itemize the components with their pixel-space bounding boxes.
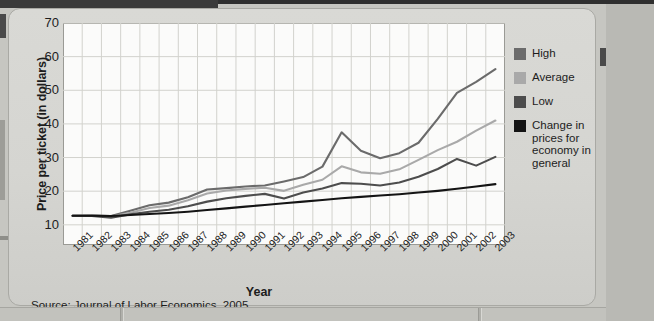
y-tick-label: 20	[33, 183, 59, 198]
right-edge-marker	[600, 48, 606, 66]
x-axis-tick-labels: 1981198219831984198519861987198819891990…	[63, 245, 513, 289]
y-tick-label: 50	[33, 82, 59, 97]
rail-tick	[478, 308, 482, 321]
left-edge-strip	[0, 120, 5, 200]
bottom-rail-line	[0, 307, 606, 308]
y-tick-label: 30	[33, 150, 59, 165]
legend-swatch-icon	[514, 48, 526, 60]
bottom-rail	[0, 307, 606, 321]
legend-item[interactable]: High	[514, 47, 592, 60]
left-edge-marker	[0, 14, 6, 38]
legend-item[interactable]: Low	[514, 95, 592, 108]
y-tick-label: 60	[33, 49, 59, 64]
figure-card: Price per ticket (in dollars) 1020304050…	[8, 8, 596, 306]
y-axis-tick-labels: 10203040506070	[31, 23, 59, 245]
chart-legend: HighAverageLowChange in prices for econo…	[514, 47, 592, 180]
legend-item-label: Low	[532, 95, 553, 108]
legend-item-label: Change in prices for economy in general	[532, 119, 592, 169]
x-axis-title: Year	[9, 285, 509, 299]
y-tick-label: 70	[33, 15, 59, 30]
legend-item[interactable]: Change in prices for economy in general	[514, 119, 592, 169]
y-tick-label: 10	[33, 217, 59, 232]
plot-area	[63, 23, 505, 245]
rail-tick	[120, 308, 124, 321]
line-chart-svg	[63, 23, 505, 245]
legend-swatch-icon	[514, 120, 526, 132]
legend-item-label: High	[532, 47, 556, 60]
top-dark-band-left	[0, 0, 218, 8]
top-dark-band-right	[218, 0, 654, 4]
legend-swatch-icon	[514, 96, 526, 108]
legend-item-label: Average	[532, 71, 575, 84]
legend-swatch-icon	[514, 72, 526, 84]
y-tick-label: 40	[33, 116, 59, 131]
legend-item[interactable]: Average	[514, 71, 592, 84]
